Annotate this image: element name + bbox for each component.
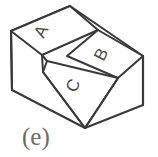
isometric-figure-container: A B C (e) [0, 0, 158, 157]
notch-edge [42, 55, 43, 72]
isometric-solid-drawing: A B C (e) [0, 0, 158, 157]
figure-caption: (e) [22, 123, 50, 151]
left-vertical-edge [11, 31, 12, 90]
